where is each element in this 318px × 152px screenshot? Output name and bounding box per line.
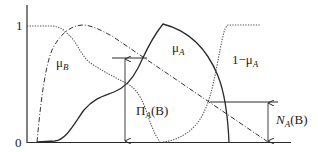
mu-b-curve [27,26,160,142]
one-minus-mu-a-label: 1−μA [232,53,258,69]
mu-a-curve [37,24,229,142]
possibility-label: ΠA(B) [136,104,168,120]
mu-b-label: μB [56,56,68,72]
diagram-canvas [0,0,318,152]
mu-a-label: μA [172,41,184,57]
necessity-label: NA(B) [276,113,308,129]
y-tick-1: 1 [16,19,23,32]
y-tick-0: 0 [15,136,22,149]
dash-dot-curve [37,25,268,142]
